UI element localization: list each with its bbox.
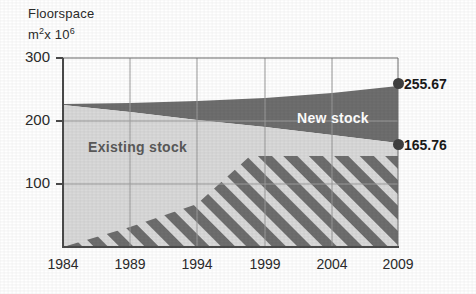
x-tick-label-1989: 1989 [102, 256, 158, 272]
new-stock-end-value-label: 255.67 [404, 76, 447, 92]
series-label-existing-stock: Existing stock [88, 139, 187, 155]
series-label-new-stock: New stock [297, 110, 369, 126]
new-stock-end-marker-dot [393, 78, 404, 89]
x-tick-label-2004: 2004 [304, 256, 360, 272]
y-tick-label-200: 200 [6, 111, 50, 128]
y-tick-marks [56, 58, 63, 184]
y-tick-label-100: 100 [6, 174, 50, 191]
x-tick-label-1984: 1984 [35, 256, 91, 272]
existing-stock-end-value-label: 165.76 [404, 137, 447, 153]
existing-stock-end-marker-dot [393, 139, 404, 150]
y-tick-label-300: 300 [6, 48, 50, 65]
floorspace-area-chart: Floorspace m2x 106 [0, 0, 476, 294]
x-tick-label-1999: 1999 [237, 256, 293, 272]
x-tick-label-1994: 1994 [169, 256, 225, 272]
x-tick-label-2009: 2009 [370, 256, 426, 272]
